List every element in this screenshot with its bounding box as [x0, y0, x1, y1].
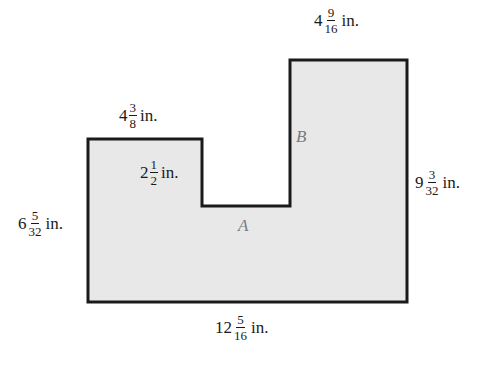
dimension-left-height: 6 5 32 in. [18, 209, 63, 238]
fraction: 1 2 [150, 158, 159, 187]
dimension-bottom-width: 12 5 16 in. [215, 313, 268, 342]
fraction: 5 16 [233, 313, 248, 342]
dimension-top-b: 4 9 16 in. [314, 6, 359, 35]
region-label-a: A [238, 216, 248, 236]
composite-shape [88, 60, 407, 302]
whole-part: 4 [314, 12, 323, 29]
dimension-right-height: 9 3 32 in. [415, 168, 460, 197]
fraction: 5 32 [28, 209, 43, 238]
dimension-top-left: 4 3 8 in. [119, 101, 157, 130]
region-label-b: B [296, 127, 306, 147]
fraction: 9 16 [324, 6, 339, 35]
fraction: 3 32 [425, 168, 440, 197]
fraction: 3 8 [129, 101, 138, 130]
dimension-notch-depth: 2 1 2 in. [140, 158, 178, 187]
